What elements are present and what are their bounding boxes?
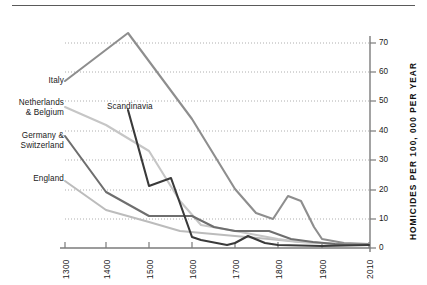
x-tick-label-1400: 1400: [103, 259, 112, 279]
chart-plot-area: [0, 0, 427, 285]
y-tick-label-30: 30: [379, 155, 388, 164]
series-label-italy: Italy: [8, 76, 64, 86]
y-axis-title: HOMICIDES PER 100, 000 PER YEAR: [408, 62, 418, 240]
chart-figure: Italy Netherlands & Belgium Germany & Sw…: [0, 0, 427, 285]
x-tick-label-2010: 2010: [366, 259, 375, 279]
x-tick-label-1600: 1600: [189, 259, 198, 279]
y-tick-label-60: 60: [379, 67, 388, 76]
y-tick-label-10: 10: [379, 214, 388, 223]
x-tick-label-1700: 1700: [232, 259, 241, 279]
y-tick-label-50: 50: [379, 96, 388, 105]
x-tick-label-1300: 1300: [62, 259, 71, 279]
x-tick-label-1500: 1500: [146, 259, 155, 279]
series-label-scandinavia: Scandinavia: [107, 102, 153, 112]
series-label-england-text: England: [33, 174, 64, 183]
y-tick-label-40: 40: [379, 126, 388, 135]
y-tick-label-70: 70: [379, 38, 388, 47]
series-label-germany-line1: Germany &: [0, 131, 64, 141]
series-label-scandinavia-text: Scandinavia: [107, 102, 153, 111]
series-label-netherlands-line2: & Belgium: [0, 108, 64, 118]
series-label-germany-line2: Switzerland: [0, 141, 64, 151]
series-line-england: [65, 181, 369, 245]
x-tick-label-1800: 1800: [275, 259, 284, 279]
gridlines: [65, 43, 370, 219]
x-tick-label-1900: 1900: [319, 259, 328, 279]
series-label-netherlands-line1: Netherlands: [0, 98, 64, 108]
series-label-netherlands-belgium: Netherlands & Belgium: [0, 98, 64, 117]
y-axis-ticks: [370, 43, 376, 248]
series-label-italy-text: Italy: [48, 76, 64, 85]
series-line-netherlands-belgium: [65, 107, 369, 245]
series-label-england: England: [0, 174, 64, 184]
y-tick-label-0: 0: [379, 243, 384, 252]
series-label-germany-switzerland: Germany & Switzerland: [0, 131, 64, 150]
y-tick-label-20: 20: [379, 185, 388, 194]
